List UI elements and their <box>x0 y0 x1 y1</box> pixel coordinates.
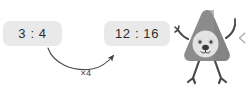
illustration-canvas: 3 : 4 12 : 16 ×4 <box>0 0 249 90</box>
mascot-eye-left <box>198 40 201 43</box>
scaled-ratio-text: 12 : 16 <box>115 27 159 40</box>
mascot-nose <box>202 45 209 51</box>
scaled-ratio-box[interactable]: 12 : 16 <box>104 21 170 46</box>
original-ratio-text: 3 : 4 <box>18 27 46 40</box>
cropped-edge-glyph <box>237 31 249 45</box>
mascot-face <box>193 31 219 58</box>
mascot-legs <box>188 61 226 83</box>
mascot-eye-right <box>209 40 212 43</box>
triangle-mascot <box>174 6 240 88</box>
multiplier-label: ×4 <box>70 68 102 78</box>
original-ratio-box[interactable]: 3 : 4 <box>3 21 62 46</box>
arrow-path <box>48 48 114 70</box>
